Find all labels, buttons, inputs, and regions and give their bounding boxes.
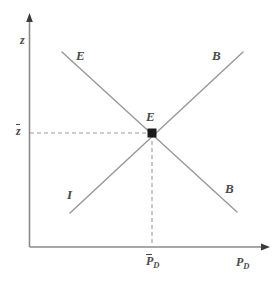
x-axis-arrowhead	[261, 244, 270, 251]
curve-label-B-bottom-right: B	[225, 182, 234, 195]
figure-canvas	[0, 0, 280, 281]
z-bar-glyph: z	[16, 125, 21, 137]
x-equilibrium-subscript: D	[153, 260, 159, 270]
p-bar-glyph: P	[146, 255, 153, 267]
equilibrium-point-marker	[148, 129, 157, 138]
curve-label-B-top-right: B	[212, 49, 221, 62]
y-axis-arrowhead	[26, 13, 33, 22]
y-axis-label: z	[20, 34, 25, 46]
z-bar-group: z	[16, 125, 21, 137]
equilibrium-figure: z PD z PD E B I B E	[0, 0, 280, 281]
x-axis-label-subscript: D	[243, 261, 249, 271]
x-equilibrium-tick-label: PD	[146, 255, 159, 270]
overbar-rule	[146, 254, 152, 255]
equilibrium-label-E: E	[146, 110, 155, 123]
curve-label-I-bottom-left: I	[67, 188, 72, 201]
x-axis-label: PD	[236, 256, 249, 271]
overbar-rule	[16, 124, 20, 125]
y-equilibrium-tick-label: z	[16, 125, 21, 137]
curve-label-E-top-left: E	[76, 49, 85, 62]
p-bar-group: P	[146, 255, 153, 267]
